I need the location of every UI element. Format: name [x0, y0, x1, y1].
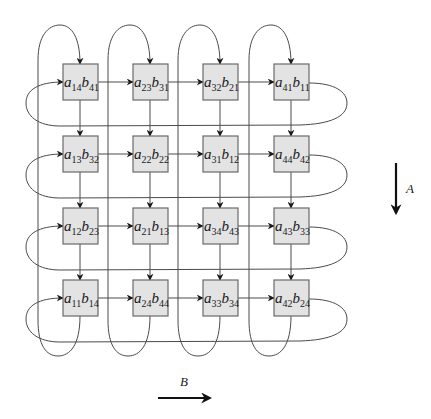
cell-r2-c3: a31b12 [203, 136, 239, 172]
axis-b-label: B [180, 374, 188, 389]
cells: a14b41 a23b31 a32b21 a41b11 a13b32 a22b2… [63, 64, 310, 316]
horizontal-links [98, 82, 274, 298]
axis-a-label: A [405, 181, 414, 196]
cell-r2-c4: a44b42 [274, 136, 310, 172]
cell-r2-c1: a13b32 [63, 136, 99, 172]
systolic-array-diagram: a14b41 a23b31 a32b21 a41b11 a13b32 a22b2… [0, 0, 431, 419]
cell-r4-c1: a11b14 [63, 280, 99, 316]
cell-r4-c2: a24b44 [133, 280, 169, 316]
axis-a: A [396, 163, 414, 213]
cell-r3-c1: a12b23 [63, 208, 99, 244]
cell-r3-c3: a34b43 [203, 208, 239, 244]
cell-r3-c4: a43b33 [274, 208, 310, 244]
cell-r3-c2: a21b13 [133, 208, 169, 244]
cell-r1-c4: a41b11 [274, 64, 310, 100]
cell-r2-c2: a22b22 [133, 136, 169, 172]
vertical-links [80, 100, 291, 280]
cell-r1-c1: a14b41 [63, 64, 99, 100]
cell-r4-c3: a33b34 [203, 280, 239, 316]
cell-r1-c3: a32b21 [203, 64, 239, 100]
axis-b: B [158, 374, 210, 398]
cell-r1-c2: a23b31 [133, 64, 169, 100]
cell-r4-c4: a42b24 [274, 280, 310, 316]
